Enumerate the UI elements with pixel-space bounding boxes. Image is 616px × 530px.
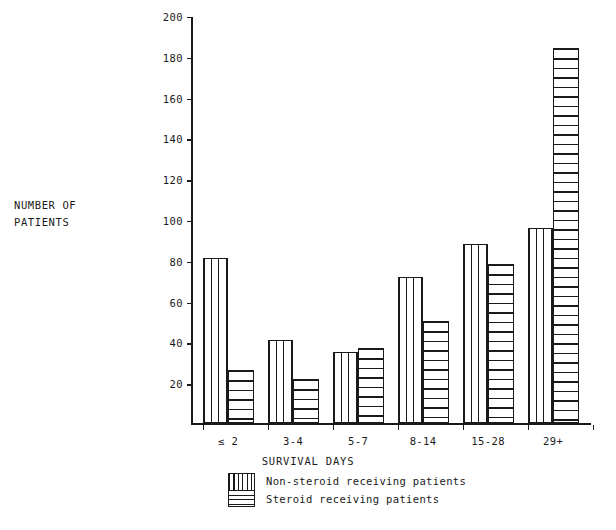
y-axis-title-line-1: NUMBER OF xyxy=(14,199,76,211)
bar-steroid-5 xyxy=(488,264,514,423)
y-tick-200 xyxy=(187,17,192,18)
legend-swatch-horizontal-stripes xyxy=(229,490,254,506)
bar-group-3 xyxy=(333,17,384,423)
x-axis-label-6: 29+ xyxy=(543,435,563,447)
y-axis-title: NUMBER OFPATIENTS xyxy=(14,197,134,231)
y-tick-100 xyxy=(187,221,192,222)
bar-non-steroid-4 xyxy=(398,277,424,424)
bar-group-1 xyxy=(203,17,254,423)
bar-group-6 xyxy=(528,17,579,423)
legend-swatch-combined xyxy=(228,473,255,507)
y-tick-80 xyxy=(187,262,192,263)
y-tick-label-140: 140 xyxy=(163,133,183,145)
x-tick-5 xyxy=(463,425,464,430)
y-tick-label-160: 160 xyxy=(163,93,183,105)
bar-series-container xyxy=(193,17,591,423)
y-tick-120 xyxy=(187,180,192,181)
x-tick-3 xyxy=(333,425,334,430)
x-axis-title: SURVIVAL DAYS xyxy=(0,455,616,467)
y-tick-label-200: 200 xyxy=(163,11,183,23)
x-axis-label-3: 5-7 xyxy=(348,435,368,447)
bar-chart: NUMBER OFPATIENTS 2001801601401201008060… xyxy=(0,0,616,530)
bar-steroid-4 xyxy=(423,321,449,423)
y-tick-180 xyxy=(187,58,192,59)
y-tick-label-80: 80 xyxy=(170,256,183,268)
x-axis-label-5: 15-28 xyxy=(471,435,505,447)
y-tick-label-180: 180 xyxy=(163,52,183,64)
bar-group-4 xyxy=(398,17,449,423)
bar-steroid-1 xyxy=(228,370,254,423)
y-tick-20 xyxy=(187,384,192,385)
x-axis-label-2: 3-4 xyxy=(283,435,303,447)
y-axis-title-line-2: PATIENTS xyxy=(14,216,69,228)
y-tick-160 xyxy=(187,99,192,100)
x-axis-label-4: 8-14 xyxy=(410,435,437,447)
legend-swatch-vertical-stripes xyxy=(229,474,254,490)
bar-non-steroid-3 xyxy=(333,352,359,423)
bar-non-steroid-2 xyxy=(268,340,294,424)
x-tick-end xyxy=(593,425,594,430)
y-tick-label-20: 20 xyxy=(170,378,183,390)
y-tick-label-60: 60 xyxy=(170,297,183,309)
bar-steroid-2 xyxy=(293,379,319,424)
y-tick-label-100: 100 xyxy=(163,215,183,227)
legend-item-non-steroid: Non-steroid receiving patients xyxy=(266,472,466,490)
y-tick-40 xyxy=(187,343,192,344)
y-tick-label-120: 120 xyxy=(163,174,183,186)
bar-group-2 xyxy=(268,17,319,423)
plot-area: 20018016014012010080604020 ≤ 23-45-78-14… xyxy=(191,17,591,425)
x-tick-4 xyxy=(398,425,399,430)
bar-non-steroid-1 xyxy=(203,258,229,423)
y-tick-60 xyxy=(187,303,192,304)
bar-non-steroid-5 xyxy=(463,244,489,424)
bar-steroid-6 xyxy=(553,48,579,423)
bar-steroid-3 xyxy=(358,348,384,423)
bar-non-steroid-6 xyxy=(528,228,554,424)
x-tick-6 xyxy=(528,425,529,430)
legend-labels: Non-steroid receiving patients Steroid r… xyxy=(266,472,466,508)
x-axis-line xyxy=(191,423,591,425)
legend-item-steroid: Steroid receiving patients xyxy=(266,490,466,508)
y-tick-label-40: 40 xyxy=(170,337,183,349)
x-tick-1 xyxy=(203,425,204,430)
y-tick-140 xyxy=(187,139,192,140)
bar-group-5 xyxy=(463,17,514,423)
x-axis-label-1: ≤ 2 xyxy=(218,435,238,447)
x-tick-2 xyxy=(268,425,269,430)
